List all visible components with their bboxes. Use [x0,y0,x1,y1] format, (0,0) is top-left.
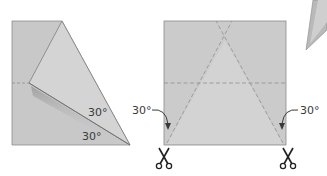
scissors-icon [156,148,171,169]
angle-label-lower: 30° [82,130,102,143]
origami-diagram: 30° 30° 30° 30° [0,0,327,176]
angle-label-upper: 30° [88,106,108,119]
scissors-icon [280,148,295,169]
unfolded-square-figure: 30° 30° [132,21,320,169]
angle-label-left: 30° [132,104,152,117]
folded-paper-figure: 30° 30° [12,21,130,145]
angle-label-right: 30° [300,104,320,117]
partial-paper-shape [306,0,327,50]
